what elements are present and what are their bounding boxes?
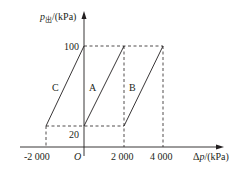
chart-canvas: C A B 100 20 -2 000 2 000 4 000 O p出/(kP… (0, 0, 242, 175)
y-axis-subscript: 出 (45, 15, 52, 24)
y-tick-20: 20 (69, 129, 79, 140)
x-axis-arrow-icon (216, 145, 224, 150)
x-tick-2000: 2 000 (111, 151, 134, 162)
y-axis-title: p出/(kPa) (39, 11, 76, 24)
series-label-c: C (52, 82, 59, 93)
origin-label: O (74, 151, 81, 162)
x-axis-unit: /(kPa) (204, 151, 228, 163)
x-axis-title: Δp/(kPa) (193, 151, 229, 163)
series-label-b: B (129, 82, 136, 93)
y-axis-arrow-icon (82, 11, 87, 19)
y-tick-100: 100 (64, 41, 79, 52)
series-label-a: A (89, 82, 97, 93)
y-axis-unit: /(kPa) (52, 11, 76, 23)
x-tick-neg2000: -2 000 (24, 151, 50, 162)
x-tick-4000: 4 000 (150, 151, 173, 162)
